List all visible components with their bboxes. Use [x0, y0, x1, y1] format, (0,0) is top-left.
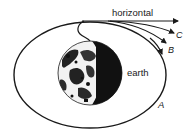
- path-a-label: A: [157, 99, 164, 110]
- horizontal-label: horizontal: [112, 7, 153, 18]
- path-c-label: C: [176, 30, 183, 40]
- orbit-diagram: horizontal earth C B A: [0, 0, 192, 134]
- falling-trajectory: [78, 21, 90, 41]
- path-b-arrow: [108, 21, 166, 43]
- path-b-label: B: [168, 45, 174, 55]
- path-a-arrow: [150, 38, 162, 54]
- earth-label: earth: [127, 67, 149, 78]
